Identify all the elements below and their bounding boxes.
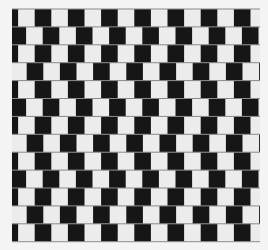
dark-tile: [134, 152, 151, 170]
dark-tile: [142, 99, 159, 117]
dark-tile: [209, 170, 226, 188]
dark-tile: [2, 188, 19, 206]
mortar-line: [12, 223, 260, 224]
dark-tile: [242, 99, 259, 117]
dark-tile: [160, 63, 177, 81]
dark-tile: [93, 206, 110, 224]
dark-tile: [234, 188, 251, 206]
dark-tile: [267, 188, 268, 206]
dark-tile: [68, 224, 85, 242]
dark-tile: [76, 170, 93, 188]
mortar-line: [12, 62, 260, 63]
dark-tile: [168, 81, 185, 99]
dark-tile: [109, 99, 126, 117]
mortar-line: [12, 188, 260, 189]
dark-tile: [10, 99, 27, 117]
dark-tile: [259, 206, 268, 224]
dark-tile: [176, 170, 193, 188]
dark-tile: [226, 63, 243, 81]
dark-tile: [226, 134, 243, 152]
dark-tile: [2, 81, 19, 99]
dark-tile: [234, 45, 251, 63]
dark-tile: [101, 188, 118, 206]
dark-tile: [201, 9, 218, 27]
mortar-line: [12, 98, 260, 99]
dark-tile: [76, 27, 93, 45]
dark-tile: [234, 81, 251, 99]
dark-tile: [35, 81, 52, 99]
dark-tile: [68, 116, 85, 134]
dark-tile: [27, 134, 44, 152]
dark-tile: [101, 45, 118, 63]
dark-tile: [68, 81, 85, 99]
dark-tile: [126, 206, 143, 224]
dark-tile: [267, 45, 268, 63]
mortar-line: [12, 26, 260, 27]
dark-tile: [201, 81, 218, 99]
dark-tile: [193, 63, 210, 81]
mortar-line: [12, 152, 260, 153]
mortar-line: [12, 170, 260, 171]
dark-tile: [101, 81, 118, 99]
dark-tile: [101, 116, 118, 134]
dark-tile: [168, 9, 185, 27]
dark-tile: [259, 63, 268, 81]
dark-tile: [176, 99, 193, 117]
dark-tile: [142, 27, 159, 45]
dark-tile: [93, 134, 110, 152]
dark-tile: [93, 63, 110, 81]
dark-tile: [168, 45, 185, 63]
dark-tile: [234, 116, 251, 134]
dark-tile: [142, 170, 159, 188]
dark-tile: [35, 152, 52, 170]
dark-tile: [60, 206, 77, 224]
dark-tile: [267, 81, 268, 99]
mortar-line: [12, 134, 260, 135]
dark-tile: [201, 116, 218, 134]
dark-tile: [126, 63, 143, 81]
dark-tile: [35, 9, 52, 27]
dark-tile: [43, 170, 60, 188]
dark-tile: [242, 170, 259, 188]
dark-tile: [109, 27, 126, 45]
dark-tile: [209, 27, 226, 45]
dark-tile: [35, 45, 52, 63]
mortar-line: [12, 44, 260, 45]
dark-tile: [27, 206, 44, 224]
mortar-line: [12, 205, 260, 206]
dark-tile: [193, 206, 210, 224]
dark-tile: [76, 99, 93, 117]
dark-tile: [101, 9, 118, 27]
dark-tile: [68, 45, 85, 63]
dark-tile: [134, 224, 151, 242]
dark-tile: [0, 63, 10, 81]
dark-tile: [134, 188, 151, 206]
dark-tile: [2, 45, 19, 63]
dark-tile: [267, 116, 268, 134]
dark-tile: [168, 224, 185, 242]
dark-tile: [201, 45, 218, 63]
dark-tile: [267, 224, 268, 242]
dark-tile: [160, 134, 177, 152]
dark-tile: [126, 134, 143, 152]
dark-tile: [43, 99, 60, 117]
dark-tile: [242, 27, 259, 45]
dark-tile: [134, 45, 151, 63]
dark-tile: [176, 27, 193, 45]
dark-tile: [2, 116, 19, 134]
dark-tile: [68, 152, 85, 170]
dark-tile: [134, 116, 151, 134]
dark-tile: [267, 152, 268, 170]
mortar-line: [12, 116, 260, 117]
dark-tile: [0, 134, 10, 152]
dark-tile: [2, 224, 19, 242]
mortar-line: [12, 241, 260, 242]
dark-tile: [10, 170, 27, 188]
dark-tile: [43, 27, 60, 45]
dark-tile: [134, 81, 151, 99]
dark-tile: [201, 152, 218, 170]
dark-tile: [2, 9, 19, 27]
dark-tile: [60, 63, 77, 81]
dark-tile: [2, 152, 19, 170]
dark-tile: [0, 206, 10, 224]
